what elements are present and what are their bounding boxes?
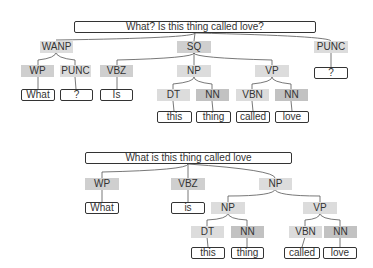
leaf-thing-2: thing [231, 247, 264, 259]
node-vbn-2: VBN [289, 226, 322, 238]
leaf-question-mark-end: ? [314, 67, 348, 79]
leaf-this-2: this [191, 247, 225, 259]
leaf-love: love [275, 111, 309, 123]
node-punc-end: PUNC [314, 41, 348, 53]
node-np-2: NP [211, 202, 245, 214]
node-wp-2: WP [85, 178, 119, 190]
leaf-is-2: is [171, 202, 205, 214]
leaf-called-2: called [284, 247, 320, 259]
node-dt-2: DT [191, 226, 224, 238]
leaf-question-mark: ? [60, 89, 93, 101]
node-sq: SQ [177, 41, 211, 53]
sentence-box-1: What? Is this thing called love? [74, 21, 316, 33]
node-wp: WP [21, 65, 54, 77]
node-nn-2: NN [275, 89, 308, 101]
node-vp-2: VP [303, 202, 337, 214]
node-nn-3: NN [231, 226, 264, 238]
node-vbz: VBZ [100, 65, 133, 77]
node-nn: NN [196, 89, 229, 101]
leaf-love-2: love [323, 247, 357, 259]
leaf-this: this [157, 111, 192, 123]
sentence-box-2: What is this thing called love [85, 152, 292, 164]
node-vbn: VBN [236, 89, 269, 101]
leaf-what: What [21, 89, 55, 101]
node-wanp: WANP [40, 41, 73, 53]
node-vbz-2: VBZ [171, 178, 205, 190]
node-dt: DT [157, 89, 190, 101]
node-np-top: NP [259, 178, 292, 190]
node-punc: PUNC [60, 65, 91, 77]
leaf-what-2: What [85, 202, 119, 214]
node-vp: VP [255, 65, 289, 77]
node-np: NP [177, 65, 211, 77]
leaf-thing: thing [196, 111, 231, 123]
leaf-is: Is [100, 89, 133, 101]
leaf-called: called [236, 111, 270, 123]
node-nn-4: NN [324, 226, 357, 238]
